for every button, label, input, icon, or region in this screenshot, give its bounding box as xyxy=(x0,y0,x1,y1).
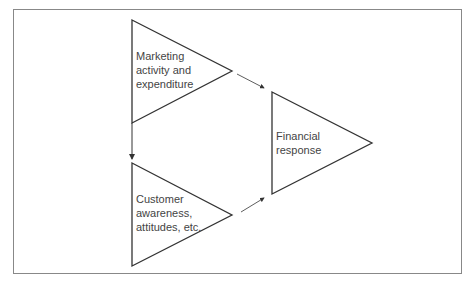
label-financial: Financial response xyxy=(276,129,321,157)
arrow-customer-to-financial xyxy=(241,198,264,212)
diagram-canvas xyxy=(0,0,476,292)
label-customer: Customer awareness, attitudes, etc. xyxy=(136,192,201,234)
frame-border xyxy=(14,10,462,274)
arrow-marketing-to-financial xyxy=(237,74,264,88)
label-marketing: Marketing activity and expenditure xyxy=(136,49,194,91)
